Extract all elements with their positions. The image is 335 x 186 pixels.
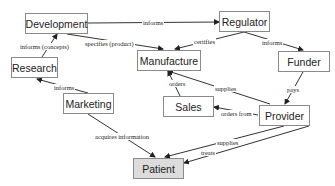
edge-label-specifies-product: specifies (product) [84, 40, 135, 47]
node-provider[interactable]: Provider [259, 105, 310, 126]
node-research[interactable]: Research [11, 57, 58, 78]
edge-label-supplies-manufacture: supplies [214, 85, 237, 92]
node-development[interactable]: Development [25, 13, 88, 34]
node-regulator[interactable]: Regulator [219, 11, 270, 32]
node-marketing[interactable]: Marketing [63, 93, 114, 114]
node-label: Marketing [65, 98, 111, 110]
edge-label-certifies: certifies [193, 38, 216, 45]
node-label: Manufacture [140, 55, 198, 67]
edge-label-orders: orders [168, 80, 186, 87]
node-label: Research [12, 62, 57, 74]
edge-label-informs-regulator: informs [142, 19, 164, 26]
node-funder[interactable]: Funder [278, 51, 330, 72]
node-label: Sales [175, 101, 201, 113]
node-patient[interactable]: Patient [133, 158, 184, 179]
node-label: Patient [142, 163, 175, 175]
node-label: Funder [287, 56, 320, 68]
edge-label-supplies-patient: supplies [216, 139, 239, 146]
edge-label-informs-research: informs [53, 84, 75, 91]
node-label: Provider [265, 110, 304, 122]
node-manufacture[interactable]: Manufacture [137, 50, 201, 71]
edge-label-acquires-information: acquires information [94, 133, 150, 140]
node-sales[interactable]: Sales [163, 96, 214, 117]
node-label: Regulator [222, 16, 268, 28]
edge-label-informs-concepts: informs (concepts) [19, 43, 70, 50]
edge-label-treats: treats [200, 149, 216, 156]
node-label: Development [26, 18, 88, 30]
edge-patient-provider-treats [184, 126, 309, 163]
edge-label-orders-from: orders from [220, 110, 253, 117]
edge-label-pays: pays [286, 86, 300, 93]
edge-label-informs-funder: informs [261, 39, 283, 46]
